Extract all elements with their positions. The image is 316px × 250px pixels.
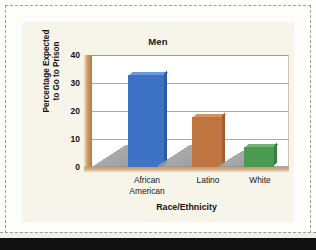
scan-bottom-strip: [0, 238, 316, 250]
figure-card: Men Percentage Expected to Go to Prison …: [22, 22, 294, 222]
bar-white[interactable]: [244, 55, 274, 167]
plot-area: 40 30 20 10 0: [84, 55, 289, 172]
x-label-african-american-line1: African: [116, 175, 178, 186]
x-label-african-american-line2: American: [116, 186, 178, 197]
bar-shadow-african-american: [94, 145, 128, 167]
y-tick-10: 10: [60, 134, 80, 144]
x-label-latino: Latino: [180, 175, 236, 186]
y-tick-30: 30: [60, 78, 80, 88]
x-label-white: White: [234, 175, 286, 186]
y-tick-20: 20: [60, 106, 80, 116]
x-label-african-american: African American: [116, 175, 178, 196]
x-axis-title: Race/Ethnicity: [84, 202, 289, 212]
bar-face-white: [244, 147, 274, 167]
x-axis-tick-labels: African American Latino White: [84, 175, 289, 203]
bar-top-african-american: [130, 72, 169, 75]
y-axis-tick-labels: 40 30 20 10 0: [60, 55, 80, 172]
bar-shadow-white: [218, 151, 244, 167]
chart-title: Men: [22, 36, 294, 47]
bar-side-white: [274, 143, 277, 166]
y-tick-0: 0: [60, 162, 80, 172]
y-axis-wall: [84, 55, 92, 172]
y-tick-40: 40: [60, 50, 80, 60]
bar-shadow-latino: [158, 145, 192, 167]
scanned-page: Men Percentage Expected to Go to Prison …: [0, 0, 316, 250]
plot-floor: [84, 167, 289, 172]
